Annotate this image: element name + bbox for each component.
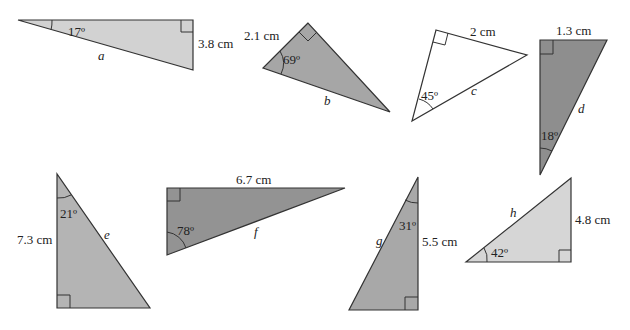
triangle-e: 21º7.3 cme bbox=[17, 174, 150, 308]
triangle-d-shape bbox=[540, 40, 607, 175]
triangle-d: 18º1.3 cmd bbox=[540, 23, 607, 175]
side-length-label: 5.5 cm bbox=[422, 234, 457, 249]
unknown-side-label: f bbox=[254, 224, 260, 239]
triangle-a-shape bbox=[18, 20, 193, 70]
side-length-label: 2 cm bbox=[470, 24, 496, 39]
angle-label: 78º bbox=[177, 223, 194, 238]
side-length-label: 2.1 cm bbox=[244, 28, 279, 43]
triangle-h: 42º4.8 cmh bbox=[466, 178, 610, 262]
triangle-f: 78º6.7 cmf bbox=[167, 172, 345, 255]
side-length-label: 7.3 cm bbox=[17, 232, 52, 247]
triangle-h-shape bbox=[466, 178, 571, 262]
unknown-side-label: e bbox=[104, 227, 110, 242]
angle-label: 21º bbox=[60, 206, 77, 221]
triangle-b: 69º2.1 cmb bbox=[244, 23, 390, 112]
unknown-side-label: c bbox=[471, 83, 477, 98]
side-length-label: 3.8 cm bbox=[198, 36, 233, 51]
side-length-label: 1.3 cm bbox=[556, 23, 591, 38]
unknown-side-label: d bbox=[578, 101, 585, 116]
angle-label: 69º bbox=[283, 52, 300, 67]
side-length-label: 4.8 cm bbox=[575, 212, 610, 227]
angle-label: 31º bbox=[399, 218, 416, 233]
unknown-side-label: a bbox=[98, 48, 105, 63]
unknown-side-label: h bbox=[510, 205, 517, 220]
triangle-f-shape bbox=[167, 188, 345, 255]
unknown-side-label: g bbox=[376, 233, 383, 248]
angle-label: 45º bbox=[421, 88, 438, 103]
unknown-side-label: b bbox=[324, 93, 331, 108]
side-length-label: 6.7 cm bbox=[236, 172, 271, 187]
triangle-a: 17º3.8 cma bbox=[18, 20, 233, 70]
triangle-diagram: 17º3.8 cma 69º2.1 cmb 45º2 cmc 18º1.3 cm… bbox=[0, 0, 630, 330]
angle-label: 17º bbox=[68, 24, 85, 39]
triangle-g: 31º5.5 cmg bbox=[349, 177, 457, 310]
angle-label: 18º bbox=[541, 128, 558, 143]
triangle-c-shape bbox=[412, 30, 527, 121]
angle-label: 42º bbox=[491, 245, 508, 260]
triangle-g-shape bbox=[349, 177, 418, 310]
triangle-c: 45º2 cmc bbox=[412, 24, 527, 121]
